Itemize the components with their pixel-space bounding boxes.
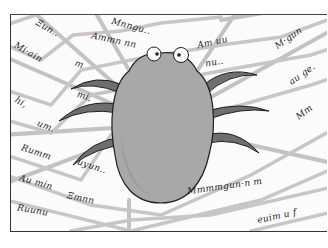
illustration-frame: Ξun..Mnngu..Ammn nnAm uuM·gunMi·ainmnu..… [10, 14, 327, 232]
spider-body [112, 53, 214, 203]
